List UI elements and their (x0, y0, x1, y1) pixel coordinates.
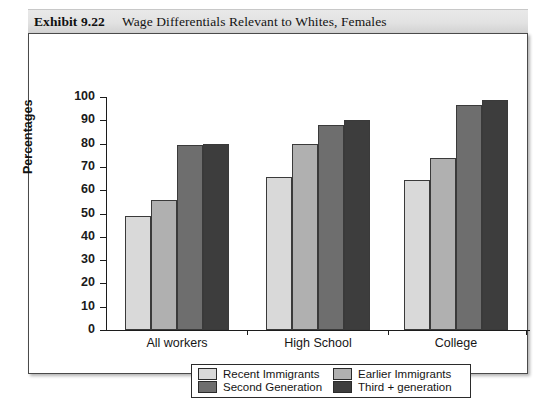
legend-label-earlier-immigrants: Earlier Immigrants (358, 368, 451, 380)
y-tick-label-20: 20 (65, 275, 95, 289)
chart-legend: Recent Immigrants Earlier Immigrants Sec… (191, 364, 471, 398)
y-tick-40 (100, 237, 106, 238)
bar-all-workers-third-generation (203, 144, 229, 330)
y-axis-title: Percentages (21, 100, 35, 174)
y-tick-label-90: 90 (65, 112, 95, 126)
legend-item-recent-immigrants[interactable]: Recent Immigrants (198, 368, 329, 380)
exhibit-title: Wage Differentials Relevant to Whites, F… (105, 14, 387, 30)
y-tick-label-60: 60 (65, 182, 95, 196)
legend-item-third-plus-generation[interactable]: Third + generation (333, 381, 464, 393)
y-tick-50 (100, 214, 106, 215)
exhibit-title-band: Exhibit 9.22 Wage Differentials Relevant… (28, 9, 528, 33)
x-axis-label-college: College (374, 336, 538, 350)
bar-high-school-recent-immigrants (266, 177, 292, 330)
x-tick-2 (526, 330, 527, 335)
legend-item-earlier-immigrants[interactable]: Earlier Immigrants (333, 368, 464, 380)
y-tick-20 (100, 283, 106, 284)
legend-item-second-generation[interactable]: Second Generation (198, 381, 329, 393)
y-tick-label-50: 50 (65, 206, 95, 220)
bar-all-workers-recent-immigrants (125, 216, 151, 330)
x-tick-1 (388, 330, 389, 335)
y-tick-label-0: 0 (65, 322, 95, 336)
y-tick-70 (100, 167, 106, 168)
chart-frame: Percentages 0102030405060708090100 All w… (28, 33, 528, 374)
legend-label-recent-immigrants: Recent Immigrants (223, 368, 320, 380)
bar-college-second-generation (456, 105, 482, 330)
exhibit-number: Exhibit 9.22 (28, 14, 105, 30)
y-tick-label-30: 30 (65, 252, 95, 266)
bar-college-earlier-immigrants (430, 158, 456, 330)
y-tick-30 (100, 260, 106, 261)
y-tick-label-70: 70 (65, 159, 95, 173)
y-tick-label-40: 40 (65, 229, 95, 243)
bar-all-workers-earlier-immigrants (151, 200, 177, 330)
legend-label-second-generation: Second Generation (223, 381, 322, 393)
y-tick-60 (100, 190, 106, 191)
bar-college-third-generation (482, 100, 508, 330)
bar-high-school-second-generation (318, 125, 344, 330)
legend-swatch-second-generation (198, 381, 217, 393)
legend-swatch-third-plus-generation (333, 381, 352, 393)
x-tick-0 (247, 330, 248, 335)
bar-high-school-third-generation (344, 120, 370, 330)
bar-high-school-earlier-immigrants (292, 144, 318, 330)
bar-college-recent-immigrants (404, 180, 430, 330)
x-axis-line (106, 330, 530, 331)
y-tick-label-10: 10 (65, 299, 95, 313)
legend-swatch-earlier-immigrants (333, 368, 352, 380)
y-tick-90 (100, 120, 106, 121)
y-tick-label-100: 100 (65, 89, 95, 103)
legend-label-third-plus-generation: Third + generation (358, 381, 452, 393)
legend-swatch-recent-immigrants (198, 368, 217, 380)
x-axis-label-all-workers: All workers (95, 336, 259, 350)
y-tick-80 (100, 144, 106, 145)
bar-all-workers-second-generation (177, 145, 203, 330)
y-axis-line (106, 97, 107, 331)
y-tick-100 (100, 97, 106, 98)
y-tick-label-80: 80 (65, 136, 95, 150)
y-tick-10 (100, 307, 106, 308)
y-tick-0 (100, 330, 106, 331)
